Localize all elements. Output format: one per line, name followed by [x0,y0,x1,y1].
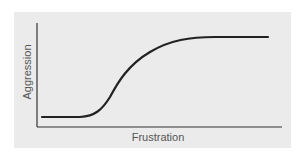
x-axis-label: Frustration [132,131,185,143]
y-axis-label: Aggression [21,44,33,99]
chart-svg: Frustration Aggression [0,0,306,160]
sigmoid-curve [42,37,268,117]
